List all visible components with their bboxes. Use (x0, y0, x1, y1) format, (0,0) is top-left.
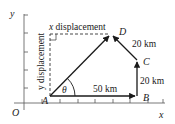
y-axis (24, 14, 28, 110)
origin-label: O (12, 107, 19, 118)
y-axis-label: y (9, 8, 15, 19)
x-displacement-label: x displacement (48, 22, 106, 32)
vector-displacement-diagram: y x O x displacement y displacement θ A … (0, 0, 175, 124)
vector-bc-magnitude: 20 km (140, 76, 165, 86)
vector-cd-magnitude: 20 km (132, 39, 157, 49)
point-b-label: B (143, 92, 149, 103)
vector-ab-magnitude: 50 km (93, 84, 118, 94)
right-angle-marker (50, 34, 56, 40)
y-displacement-label: y displacement (36, 32, 46, 90)
point-d-label: D (118, 26, 127, 37)
x-axis-label: x (158, 109, 164, 120)
angle-arc (68, 79, 76, 97)
point-c-label: C (143, 56, 150, 67)
point-a-label: A (41, 95, 49, 106)
angle-theta-label: θ (62, 85, 67, 95)
